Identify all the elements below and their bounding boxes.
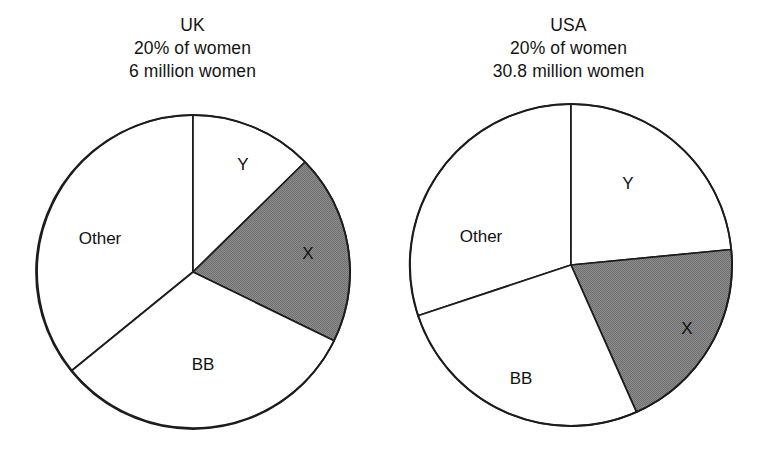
- chart-panel-usa: USA 20% of women 30.8 million women: [376, 0, 761, 451]
- pie-label-x-usa: X: [681, 319, 692, 338]
- pie-slice-y-usa[interactable]: [571, 104, 731, 265]
- pie-label-bb-usa: BB: [510, 369, 533, 388]
- pie-label-y-uk: Y: [237, 155, 248, 174]
- pie-svg-uk: Y X BB Other: [0, 0, 385, 451]
- pie-svg-usa: Y X BB Other: [376, 0, 761, 451]
- pie-label-other-usa: Other: [460, 227, 503, 246]
- pie-label-x-uk: X: [302, 244, 313, 263]
- pie-chart-figure: UK 20% of women 6 million women: [0, 0, 761, 451]
- pie-uk: Y X BB Other: [0, 0, 385, 451]
- pie-label-y-usa: Y: [622, 174, 633, 193]
- pie-label-bb-uk: BB: [192, 355, 215, 374]
- chart-panel-uk: UK 20% of women 6 million women: [0, 0, 385, 451]
- pie-label-other-uk: Other: [79, 229, 122, 248]
- pie-usa: Y X BB Other: [376, 0, 761, 451]
